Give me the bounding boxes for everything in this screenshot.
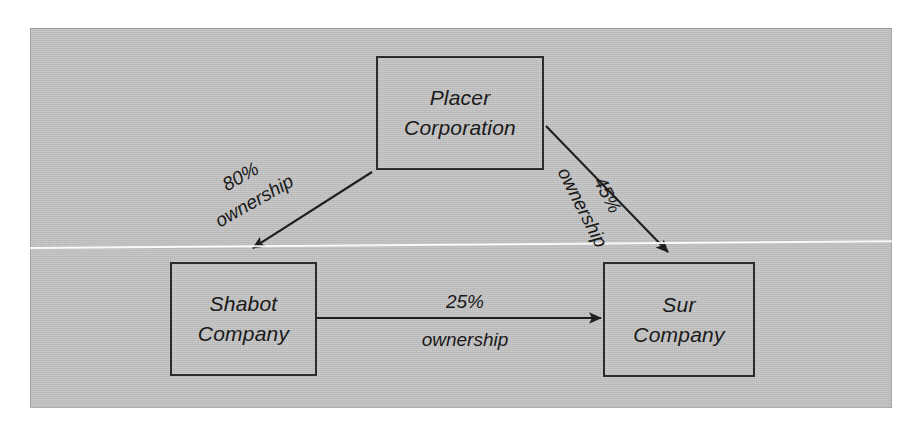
edge-label-percent: 25% [400,288,530,316]
node-sur-line1: Sur [662,290,695,320]
edge-label-relation: ownership [400,326,530,354]
node-shabot-line2: Company [198,319,289,349]
node-sur-company: Sur Company [603,262,755,377]
node-shabot-company: Shabot Company [170,262,317,376]
node-placer-line2: Corporation [404,113,516,143]
node-placer-line1: Placer [430,83,491,113]
node-placer-corporation: Placer Corporation [376,56,544,170]
diagram-page: Placer Corporation Shabot Company Sur Co… [0,0,916,428]
node-sur-line2: Company [633,320,724,350]
edge-label-shabot-to-sur: 25% ownership [400,288,530,353]
node-shabot-line1: Shabot [210,289,278,319]
